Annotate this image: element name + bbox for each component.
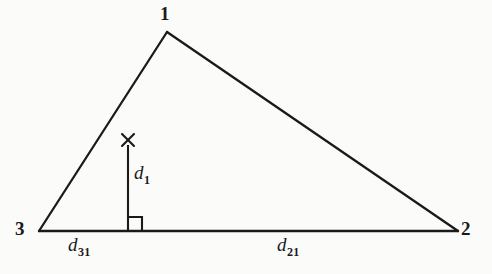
d1-subscript: 1 — [144, 173, 150, 187]
distance-label-d21: d21 — [277, 235, 299, 258]
d1-base: d — [134, 162, 144, 183]
right-angle-icon — [128, 217, 142, 231]
vertex-label-2: 2 — [461, 219, 471, 238]
d21-subscript: 21 — [287, 245, 299, 259]
edge-1-to-2 — [167, 32, 458, 231]
triangle-diagram-svg — [0, 0, 492, 274]
d31-subscript: 31 — [78, 245, 90, 259]
vertex-label-1: 1 — [160, 4, 170, 23]
distance-label-d1: d1 — [134, 163, 150, 186]
d21-base: d — [277, 234, 287, 255]
edge-3-to-1 — [39, 32, 167, 231]
x-mark-icon — [122, 134, 134, 146]
d31-base: d — [68, 234, 78, 255]
vertex-label-3: 3 — [15, 219, 25, 238]
diagram-canvas: 1 2 3 d1 d31 d21 — [0, 0, 492, 274]
distance-label-d31: d31 — [68, 235, 90, 258]
